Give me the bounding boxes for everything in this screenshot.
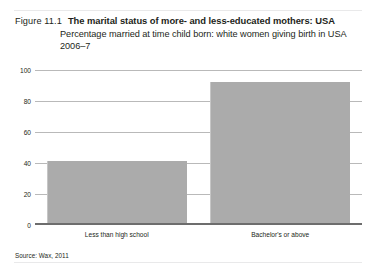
figure-subtitle: Percentage married at time child born: w… bbox=[60, 28, 360, 53]
category-label-1: Bachelor's or above bbox=[251, 231, 309, 238]
y-tick-label-40: 40 bbox=[24, 160, 31, 167]
figure-top-rule bbox=[14, 10, 362, 11]
bar-1 bbox=[210, 82, 350, 225]
y-tick-label-20: 20 bbox=[24, 191, 31, 198]
caption-heading-line: Figure 11.1 The marital status of more- … bbox=[15, 15, 365, 26]
figure-number: Figure 11.1 bbox=[15, 16, 62, 26]
figure-block: Figure 11.1 The marital status of more- … bbox=[0, 0, 375, 271]
chart-plot-area: 020406080100 bbox=[35, 70, 362, 225]
category-labels-group: Less than high schoolBachelor's or above bbox=[35, 231, 362, 243]
figure-title: The marital status of more- and less-edu… bbox=[68, 15, 335, 26]
bar-0 bbox=[47, 161, 187, 225]
y-tick-label-0: 0 bbox=[27, 222, 31, 229]
figure-bottom-rule bbox=[14, 262, 362, 263]
figure-caption: Figure 11.1 The marital status of more- … bbox=[15, 15, 365, 53]
y-tick-label-60: 60 bbox=[24, 129, 31, 136]
figure-source: Source: Wax, 2011 bbox=[15, 252, 69, 259]
y-tick-label-100: 100 bbox=[20, 67, 31, 74]
category-label-0: Less than high school bbox=[85, 231, 149, 238]
y-tick-label-80: 80 bbox=[24, 98, 31, 105]
x-axis-baseline bbox=[35, 223, 362, 225]
gridline-0: 0 bbox=[35, 225, 362, 226]
bars-group bbox=[35, 70, 362, 225]
